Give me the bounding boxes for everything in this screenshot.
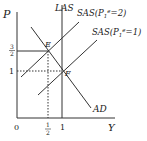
x-tick-1: 1 bbox=[60, 123, 65, 132]
y-tick-1: 1 bbox=[9, 67, 14, 76]
y-tick-32-den: 2 bbox=[10, 50, 14, 57]
y-axis-label: P bbox=[2, 8, 11, 21]
point-e-label: E bbox=[44, 40, 51, 49]
origin-label: 0 bbox=[14, 123, 19, 132]
y-tick-32-num: 3 bbox=[10, 43, 14, 50]
las-label: LAS bbox=[54, 3, 74, 13]
x-tick-half-num: 1 bbox=[46, 121, 50, 128]
sas1-label: SAS(P1e=1) bbox=[92, 27, 141, 38]
point-f-label: F bbox=[64, 69, 71, 78]
ad-label: AD bbox=[92, 104, 107, 114]
sas2-label: SAS(P1e=2) bbox=[77, 8, 126, 19]
x-axis-label: Y bbox=[108, 122, 116, 133]
ad-as-chart: P Y LAS SAS(P1e=2) SAS(P1e=1) AD E F 0 1… bbox=[0, 0, 147, 141]
x-tick-half-den: 2 bbox=[46, 129, 50, 136]
